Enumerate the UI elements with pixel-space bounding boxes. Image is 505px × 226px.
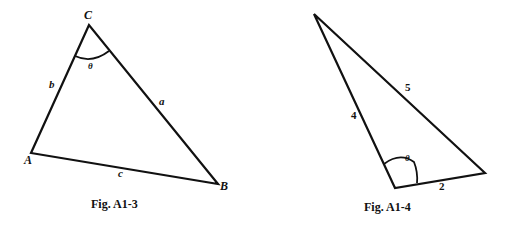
angle-arc-fig4: [384, 157, 417, 183]
vertex-label-b: B: [220, 180, 228, 192]
vertex-label-c: C: [84, 9, 92, 21]
side-label-4: 4: [351, 110, 357, 121]
figure-caption: Fig. A1-4: [364, 201, 411, 213]
side-label-b: b: [49, 79, 55, 90]
side-label-2: 2: [439, 181, 445, 192]
side-label-5: 5: [405, 82, 411, 93]
angle-arc-c: [75, 51, 109, 59]
angle-label-theta: θ: [405, 154, 410, 163]
side-label-c: c: [118, 168, 123, 179]
triangle-fig4: [314, 14, 485, 188]
diagram-canvas: [0, 0, 505, 226]
angle-label-theta: θ: [88, 62, 93, 71]
triangle-abc: [31, 25, 218, 184]
figure-caption: Fig. A1-3: [91, 198, 138, 210]
side-label-a: a: [159, 96, 165, 107]
vertex-label-a: A: [24, 154, 32, 166]
